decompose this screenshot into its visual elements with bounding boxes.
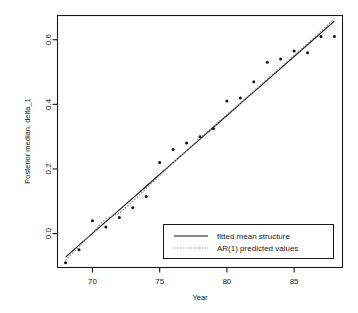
- data-point: [78, 248, 81, 251]
- x-tick-label-75: 75: [155, 277, 164, 286]
- data-point: [64, 261, 67, 264]
- x-tick-label-85: 85: [290, 277, 299, 286]
- legend-label-ar1-predicted-values: AR(1) predicted values: [217, 244, 298, 253]
- data-point: [319, 35, 322, 38]
- y-tick-label-0.6: 0.6: [44, 34, 53, 46]
- x-axis-title: Year: [192, 293, 208, 302]
- data-point: [118, 216, 121, 219]
- data-point: [306, 51, 309, 54]
- data-point: [145, 195, 148, 198]
- data-point: [252, 80, 255, 83]
- x-tick-label-70: 70: [88, 277, 97, 286]
- data-point: [212, 127, 215, 130]
- data-point: [172, 148, 175, 151]
- legend-box: [164, 225, 334, 259]
- data-point: [333, 35, 336, 38]
- data-point: [185, 142, 188, 145]
- data-point: [131, 206, 134, 209]
- data-point: [158, 161, 161, 164]
- scatter-plot-canvas: 70758085 0.00.20.40.6 Year Posterior med…: [0, 0, 358, 313]
- data-point: [91, 219, 94, 222]
- x-tick-label-80: 80: [222, 277, 231, 286]
- y-tick-label-0.2: 0.2: [44, 163, 53, 175]
- y-axis-title: Posterior median, delta_1: [23, 98, 32, 183]
- data-point: [266, 61, 269, 64]
- data-point: [239, 96, 242, 99]
- y-tick-label-0.4: 0.4: [44, 98, 53, 110]
- chart-figure: 70758085 0.00.20.40.6 Year Posterior med…: [0, 0, 358, 313]
- chart-legend: fitted mean structure AR(1) predicted va…: [164, 225, 334, 259]
- data-point: [293, 50, 296, 53]
- data-point: [104, 226, 107, 229]
- data-point: [279, 58, 282, 61]
- data-point: [199, 135, 202, 138]
- y-tick-label-0.0: 0.0: [44, 227, 53, 239]
- legend-label-fitted-mean-structure: fitted mean structure: [217, 232, 290, 241]
- data-point: [225, 100, 228, 103]
